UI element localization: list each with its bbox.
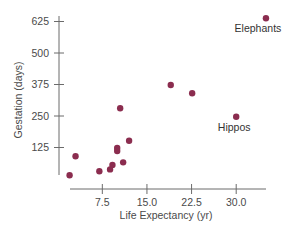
x-tick-label: 7.5 <box>95 196 110 208</box>
scatter-chart: 125250375500625 7.515.022.530.0 Gestatio… <box>0 0 292 234</box>
y-tick-label: 250 <box>31 110 49 122</box>
x-tick-label: 15.0 <box>137 196 158 208</box>
y-axis-title: Gestation (days) <box>12 61 24 138</box>
y-tick-label: 375 <box>31 78 49 90</box>
data-point <box>72 153 78 159</box>
data-point <box>168 82 174 88</box>
y-axis: 125250375500625 <box>31 15 64 175</box>
x-tick-label: 30.0 <box>226 196 247 208</box>
y-tick-label: 125 <box>31 141 49 153</box>
annotations: ElephantsHippos <box>218 22 281 133</box>
data-point <box>109 162 115 168</box>
data-point <box>96 168 102 174</box>
data-point <box>66 172 72 178</box>
annotation-hippos: Hippos <box>218 121 251 133</box>
y-tick-label: 500 <box>31 47 49 59</box>
data-point <box>233 114 239 120</box>
x-tick-label: 22.5 <box>181 196 202 208</box>
data-point <box>126 137 132 143</box>
data-point <box>117 105 123 111</box>
data-point <box>114 148 120 154</box>
data-points <box>66 15 269 178</box>
data-point <box>189 90 195 96</box>
y-tick-label: 625 <box>31 15 49 27</box>
x-axis-title: Life Expectancy (yr) <box>120 209 213 221</box>
data-point <box>263 15 269 21</box>
x-axis: 7.515.022.530.0 <box>70 184 266 208</box>
data-point <box>120 159 126 165</box>
annotation-elephants: Elephants <box>235 22 282 34</box>
